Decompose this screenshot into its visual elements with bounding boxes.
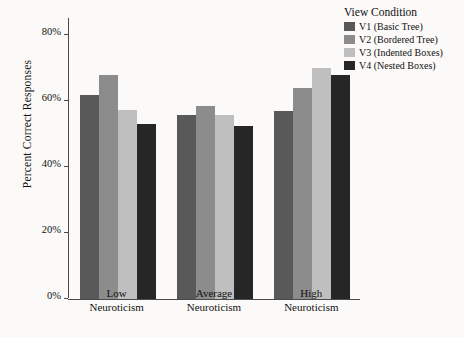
- y-tick-label: 60%: [42, 92, 61, 103]
- legend-items: V1 (Basic Tree)V2 (Bordered Tree)V3 (Ind…: [344, 21, 462, 71]
- bar-group: [80, 18, 156, 299]
- x-axis-label: HighNeuroticism: [263, 286, 360, 314]
- x-label-line2: Neuroticism: [68, 300, 165, 314]
- bar-v4-1[interactable]: [137, 124, 156, 299]
- legend-swatch-v4: [344, 61, 355, 70]
- legend-item-v4[interactable]: V4 (Nested Boxes): [344, 60, 462, 71]
- y-tick-label: 40%: [42, 158, 61, 169]
- legend: View Condition V1 (Basic Tree)V2 (Border…: [344, 6, 462, 73]
- y-tick-label: 80%: [42, 26, 61, 37]
- x-label-line2: Neuroticism: [165, 300, 262, 314]
- bar-v2-2[interactable]: [196, 106, 215, 299]
- bar-v2-1[interactable]: [99, 75, 118, 299]
- x-label-line1: High: [263, 286, 360, 300]
- bar-v3-1[interactable]: [118, 110, 137, 299]
- x-axis-label: LowNeuroticism: [68, 286, 165, 314]
- bar-v4-3[interactable]: [331, 75, 350, 299]
- y-tick-mark: [64, 166, 68, 167]
- legend-swatch-v2: [344, 35, 355, 44]
- bar-v1-2[interactable]: [177, 115, 196, 299]
- x-label-line2: Neuroticism: [263, 300, 360, 314]
- legend-swatch-v1: [344, 22, 355, 31]
- legend-title: View Condition: [344, 6, 462, 18]
- plot-area: 0%20%40%60%80%: [68, 18, 360, 300]
- bar-group: [177, 18, 253, 299]
- legend-item-v1[interactable]: V1 (Basic Tree): [344, 21, 462, 32]
- legend-item-v3[interactable]: V3 (Indented Boxes): [344, 47, 462, 58]
- y-tick-mark: [64, 34, 68, 35]
- bar-v4-2[interactable]: [234, 126, 253, 299]
- y-tick-label: 20%: [42, 224, 61, 235]
- bar-series-container: [69, 18, 360, 299]
- y-tick-mark: [64, 100, 68, 101]
- bar-chart: Percent Correct Responses 0%20%40%60%80%…: [0, 0, 464, 337]
- x-label-line1: Low: [68, 286, 165, 300]
- legend-label: V1 (Basic Tree): [359, 21, 423, 32]
- legend-label: V4 (Nested Boxes): [359, 60, 436, 71]
- y-tick-mark: [64, 232, 68, 233]
- bar-v1-1[interactable]: [80, 95, 99, 299]
- legend-swatch-v3: [344, 48, 355, 57]
- bar-v3-3[interactable]: [312, 68, 331, 299]
- legend-label: V3 (Indented Boxes): [359, 47, 443, 58]
- y-tick-label: 0%: [47, 290, 61, 301]
- x-axis-label: AverageNeuroticism: [165, 286, 262, 314]
- bar-v2-3[interactable]: [293, 88, 312, 299]
- bar-group: [274, 18, 350, 299]
- x-label-line1: Average: [165, 286, 262, 300]
- y-axis-title: Percent Correct Responses: [21, 29, 33, 219]
- legend-label: V2 (Bordered Tree): [359, 34, 438, 45]
- bar-v1-3[interactable]: [274, 111, 293, 299]
- bar-v3-2[interactable]: [215, 115, 234, 299]
- legend-item-v2[interactable]: V2 (Bordered Tree): [344, 34, 462, 45]
